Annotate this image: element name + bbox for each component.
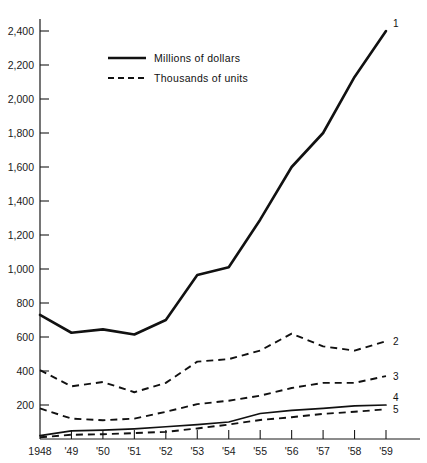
series-end-label-5: 5 xyxy=(393,404,399,415)
series-end-label-2: 2 xyxy=(393,336,399,347)
chart-legend: Millions of dollarsThousands of units xyxy=(108,52,248,84)
x-tick-label: '54 xyxy=(222,445,236,457)
x-axis: 1948'49'50'51'52'53'54'55'56'57'58'59 xyxy=(28,430,420,457)
y-tick-label: 1,400 xyxy=(8,195,34,207)
x-tick-label: '57 xyxy=(316,445,330,457)
series-lines xyxy=(40,31,386,437)
series-end-label-1: 1 xyxy=(393,18,399,29)
y-tick-label: 800 xyxy=(16,297,34,309)
y-tick-label: 1,600 xyxy=(8,161,34,173)
series-end-label-3: 3 xyxy=(393,371,399,382)
y-tick-label: 1,800 xyxy=(8,127,34,139)
chart-container: 2004006008001,0001,2001,4001,6001,8002,0… xyxy=(0,0,427,463)
y-tick-label: 2,000 xyxy=(8,93,34,105)
y-tick-label: 400 xyxy=(16,365,34,377)
legend-label-1: Millions of dollars xyxy=(154,52,240,64)
x-tick-label: 1948 xyxy=(28,445,52,457)
x-tick-label: '55 xyxy=(253,445,267,457)
line-chart-plot: 2004006008001,0001,2001,4001,6001,8002,0… xyxy=(0,0,427,463)
x-tick-label: '50 xyxy=(96,445,110,457)
x-tick-label: '49 xyxy=(65,445,79,457)
y-tick-label: 200 xyxy=(16,399,34,411)
x-tick-label: '53 xyxy=(190,445,204,457)
x-tick-label: '56 xyxy=(285,445,299,457)
series-end-label-4: 4 xyxy=(393,392,399,403)
series-line-3 xyxy=(40,376,386,420)
x-tick-label: '52 xyxy=(159,445,173,457)
x-tick-label: '51 xyxy=(128,445,142,457)
y-tick-label: 600 xyxy=(16,331,34,343)
y-tick-label: 1,000 xyxy=(8,263,34,275)
y-tick-label: 1,200 xyxy=(8,229,34,241)
series-line-2 xyxy=(40,334,386,393)
x-tick-label: '58 xyxy=(348,445,362,457)
x-tick-label: '59 xyxy=(379,445,393,457)
y-tick-label: 2,200 xyxy=(8,59,34,71)
series-end-labels: 12345 xyxy=(393,18,399,415)
legend-label-2: Thousands of units xyxy=(154,72,248,84)
y-axis: 2004006008001,0001,2001,4001,6001,8002,0… xyxy=(8,19,49,439)
y-tick-label: 2,400 xyxy=(8,25,34,37)
